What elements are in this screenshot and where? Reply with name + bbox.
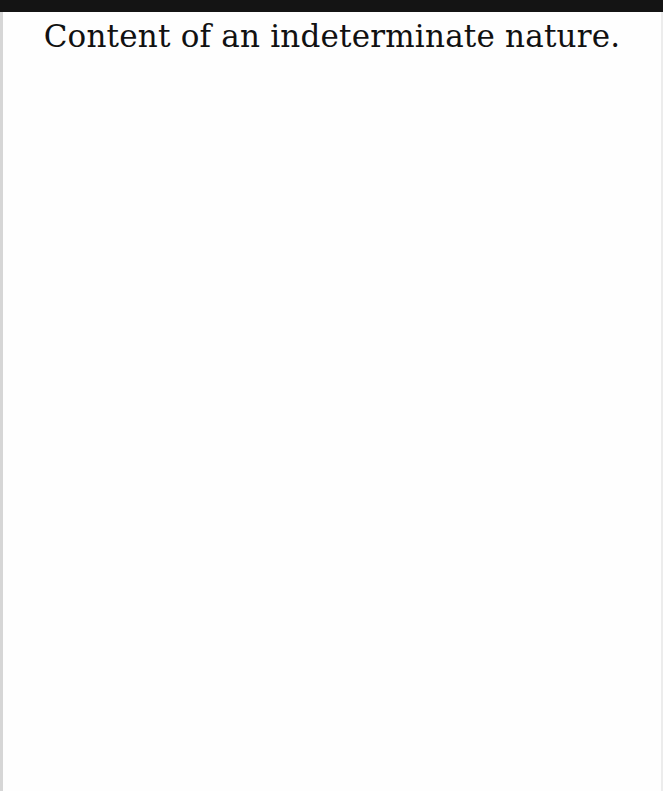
page-heading: Content of an indeterminate nature. (3, 18, 661, 54)
top-dark-band (0, 0, 663, 12)
document-page: Content of an indeterminate nature. (3, 12, 661, 791)
